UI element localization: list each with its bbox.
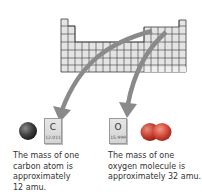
periodic-table: [61, 19, 186, 72]
carbon-element-tile: C 12.011: [44, 118, 62, 144]
carbon-caption: The mass of one carbon atom is approxima…: [13, 151, 79, 192]
carbon-symbol: C: [45, 122, 61, 132]
carbon-mass: 12.011: [45, 135, 61, 140]
oxygen-element-tile: O 15.999: [109, 118, 127, 144]
oxygen-caption: The mass of one oxygen molecule is appro…: [108, 151, 201, 183]
oxygen-molecule-icon: [141, 123, 172, 141]
oxygen-symbol: O: [110, 122, 126, 132]
oxygen-mass: 15.999: [110, 135, 126, 140]
carbon-atom-icon: [19, 122, 37, 140]
